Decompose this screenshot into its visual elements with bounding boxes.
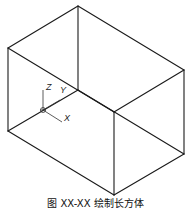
z-axis-label: Z — [46, 83, 52, 92]
edge-bottom-front-left — [8, 131, 114, 195]
figure-caption: 图 XX-XX 绘制长方体 — [0, 199, 191, 209]
x-axis-label: X — [64, 114, 70, 123]
box-diagram: Z Y X — [0, 0, 191, 200]
edge-top-left-back — [8, 6, 78, 48]
edge-bottom-back-right — [78, 90, 184, 154]
edge-top-right-front — [114, 70, 184, 112]
wireframe-box — [0, 0, 191, 200]
y-axis-icon — [43, 100, 60, 110]
x-axis-icon — [43, 110, 62, 122]
edge-top-back-right — [78, 6, 184, 70]
edge-bottom-right-front — [114, 154, 184, 195]
y-axis-label: Y — [60, 86, 66, 95]
